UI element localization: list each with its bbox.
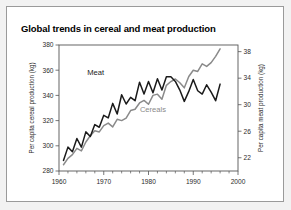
- x-axis-tick-label: 1980: [141, 178, 156, 185]
- series-line-meat: [63, 77, 220, 161]
- figure-container: Global trends in cereal and meat product…: [0, 0, 291, 210]
- series-annotation-cereals: Cereals: [140, 105, 166, 114]
- y-axis-tick-label: 340: [42, 92, 53, 99]
- y2-axis-tick-label: 26: [244, 128, 252, 135]
- x-axis-tick-label: 1970: [96, 178, 111, 185]
- series-annotation-meat: Meat: [87, 68, 105, 77]
- y-axis-tick-label: 360: [42, 67, 53, 74]
- y2-axis-title: Per capita meat production (kg): [257, 64, 265, 152]
- x-axis-tick-label: 1990: [186, 178, 201, 185]
- y2-axis-tick-label: 38: [244, 48, 252, 55]
- x-axis-tick-label: 1960: [52, 178, 67, 185]
- y-axis-tick-label: 300: [42, 142, 53, 149]
- x-axis-tick-label: 2000: [231, 178, 246, 185]
- y2-axis-tick-label: 34: [244, 74, 252, 81]
- y-axis-tick-label: 380: [42, 41, 53, 48]
- y-axis-title: Per capita cereal production (kg): [28, 62, 36, 153]
- y-axis-tick-label: 320: [42, 117, 53, 124]
- y2-axis-tick-label: 30: [244, 101, 252, 108]
- chart-plot: 2803003203403603802226303438196019701980…: [7, 7, 285, 203]
- y2-axis-tick-label: 22: [244, 154, 252, 161]
- chart-card: Global trends in cereal and meat product…: [6, 6, 284, 202]
- y-axis-tick-label: 280: [42, 167, 53, 174]
